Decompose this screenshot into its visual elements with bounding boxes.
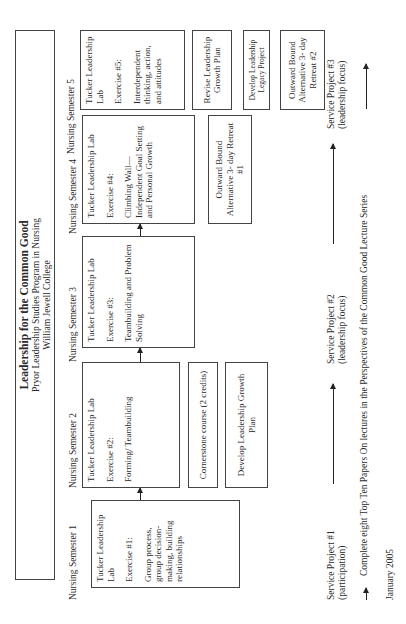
arrow-right-icon (140, 488, 141, 500)
cornerstone-course-box: Cornerstone course (2 credits) (188, 362, 218, 488)
exercise-topic: Interdependent thinking, action, and att… (132, 36, 164, 104)
exercise-topic: Climbing Wall—Independent Goal Setting a… (123, 121, 155, 218)
lab-label: Tucker Leadership Lab (84, 36, 105, 104)
service-project-1: Service Project #1 (participation) (326, 530, 348, 600)
legacy-project-box: Develop Leadership Legacy Project (243, 30, 270, 110)
lab-label: Tucker Leadership Lab (86, 368, 97, 482)
service-project-2: Service Project #2 (leadership focus) (326, 294, 348, 364)
exercise-label: Exercise #4: (105, 121, 116, 218)
semester-2-box: Tucker Leadership Lab Exercise #2: Formi… (82, 362, 180, 488)
document-date: January 2005 (385, 549, 395, 600)
arrow-right-icon (366, 64, 367, 109)
rotated-page: Leadership for the Common Good Pryor Lea… (0, 0, 406, 624)
service-project-3: Service Project #3 (leadership focus) (326, 59, 348, 129)
lab-label: Tucker Leadership Lab (95, 506, 116, 582)
exercise-topic: Group process, group decision-making, bu… (143, 506, 185, 582)
semester-1-label: Nursing Semester 1 (68, 525, 78, 600)
exercise-label: Exercise #1: (124, 506, 135, 582)
arrow-right-icon (140, 224, 141, 236)
growth-plan-box: Develop Leadership Growth Plan (225, 362, 268, 488)
title-box: Leadership for the Common Good Pryor Lea… (15, 30, 55, 580)
semester-5-label: Nursing Semester 5 (66, 79, 76, 154)
semester-5-box: Tucker Leadership Lab Exercise #5: Inter… (80, 30, 185, 110)
arrow-right-icon (140, 348, 141, 362)
semester-2-label: Nursing Semester 2 (68, 413, 78, 488)
semester-3-label: Nursing Semester 3 (68, 287, 78, 362)
arrow-right-icon (333, 144, 334, 244)
exercise-label: Exercise #2: (105, 368, 116, 482)
semester-4-label: Nursing Semester 4 (68, 159, 78, 234)
outward-bound-retreat-1-box: Outward Bound Alternative 3- day Retreat… (208, 115, 252, 224)
exercise-topic: Teambuilding and Problem Solving (123, 242, 144, 342)
exercise-topic: Forming/ Teambuilding (123, 368, 134, 482)
semester-4-box: Tucker Leadership Lab Exercise #4: Climb… (82, 115, 195, 224)
arrow-right-icon (333, 384, 334, 484)
semester-3-box: Tucker Leadership Lab Exercise #3: Teamb… (82, 236, 195, 348)
exercise-label: Exercise #5: (113, 36, 124, 104)
page-title: Leadership for the Common Good (18, 31, 31, 579)
semester-1-box: Tucker Leadership Lab Exercise #1: Group… (91, 500, 240, 588)
lab-label: Tucker Leadership Lab (86, 121, 97, 218)
outward-bound-retreat-2-box: Outward Bound Alternative 3- day Retreat… (280, 30, 325, 110)
lecture-series-note: Complete eight Top Ten Papers On lecture… (359, 195, 369, 576)
college-name: William Jewell College (42, 31, 53, 579)
lab-label: Tucker Leadership Lab (86, 242, 97, 342)
revise-growth-plan-box: Revise Leadership Growth Plan (192, 30, 232, 110)
arrow-right-icon (366, 588, 367, 600)
exercise-label: Exercise #3: (105, 242, 116, 342)
program-name: Pryor Leadership Studies Program in Nurs… (31, 31, 42, 579)
